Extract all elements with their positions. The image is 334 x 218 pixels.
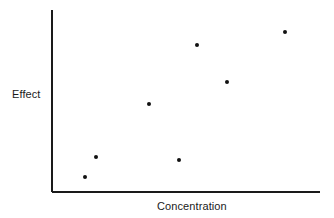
data-point — [94, 155, 98, 159]
data-point — [283, 30, 287, 34]
data-point — [225, 80, 229, 84]
axes — [52, 10, 320, 192]
x-axis-label: Concentration — [157, 200, 227, 212]
data-point — [195, 43, 199, 47]
data-point — [147, 102, 151, 106]
data-point-series — [83, 30, 287, 179]
data-point — [83, 175, 87, 179]
data-point — [177, 158, 181, 162]
plot-canvas — [0, 0, 334, 218]
y-axis-label: Effect — [12, 88, 41, 100]
scatter-plot-figure: Effect Concentration — [0, 0, 334, 218]
